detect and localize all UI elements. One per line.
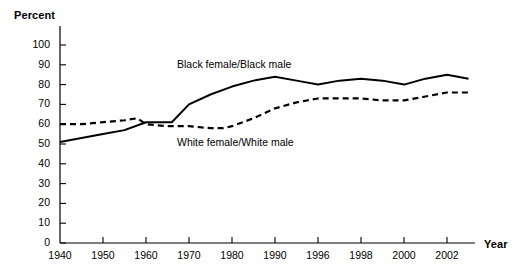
x-tick-label: 1940 xyxy=(48,249,71,261)
y-tick-label: 70 xyxy=(26,97,50,109)
y-tick-label: 90 xyxy=(26,58,50,70)
plot-area xyxy=(0,0,527,270)
series-line-white-female-white-male xyxy=(60,93,469,129)
y-tick-label: 20 xyxy=(26,196,50,208)
x-tick-label: 1970 xyxy=(177,249,200,261)
y-tick-label: 10 xyxy=(26,216,50,228)
x-tick-label: 1980 xyxy=(220,249,243,261)
series-line-black-female-black-male xyxy=(60,75,469,142)
y-tick-label: 50 xyxy=(26,137,50,149)
axis-lines xyxy=(60,26,475,243)
x-tick-label: 1998 xyxy=(349,249,372,261)
y-tick-label: 80 xyxy=(26,78,50,90)
y-tick-label: 40 xyxy=(26,157,50,169)
y-tick-label: 0 xyxy=(26,236,50,248)
y-tick-label: 60 xyxy=(26,117,50,129)
y-tick-label: 100 xyxy=(26,38,50,50)
series-paths xyxy=(60,75,469,142)
y-tick-label: 30 xyxy=(26,177,50,189)
x-tick-label: 2000 xyxy=(392,249,415,261)
chart-figure: Percent Year Black female/Black male Whi… xyxy=(0,0,527,270)
x-tick-label: 2002 xyxy=(435,249,458,261)
x-tick-label: 1950 xyxy=(91,249,114,261)
y-axis-ticks xyxy=(60,45,66,243)
x-tick-label: 1990 xyxy=(263,249,286,261)
x-axis-ticks xyxy=(103,237,447,243)
x-tick-label: 1996 xyxy=(306,249,329,261)
x-tick-label: 1960 xyxy=(134,249,157,261)
